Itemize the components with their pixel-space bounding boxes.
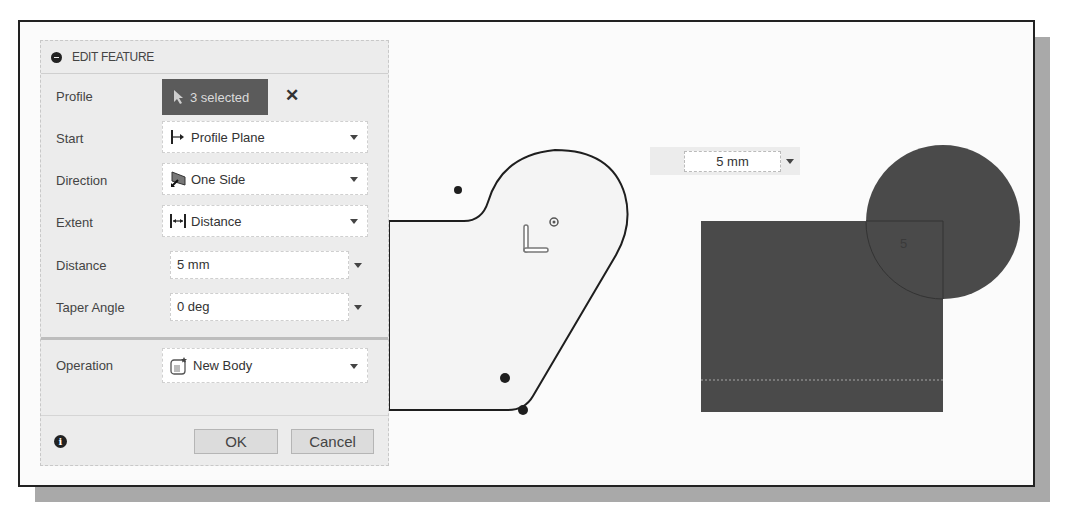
start-value: Profile Plane	[191, 130, 265, 145]
direction-dropdown[interactable]: One Side	[162, 163, 368, 195]
profile-selection-button[interactable]: 3 selected	[162, 79, 268, 115]
row-distance: Distance 5 mm	[41, 249, 388, 283]
operation-dropdown[interactable]: New Body	[162, 348, 368, 383]
one-side-icon	[169, 170, 187, 188]
cursor-arrow-icon	[172, 89, 186, 105]
row-extent: Extent Distance	[41, 205, 388, 239]
row-direction: Direction One Side	[41, 163, 388, 197]
row-operation: Operation New Body	[41, 348, 388, 382]
edit-feature-panel: EDIT FEATURE Profile 3 selected ✕ Start …	[40, 40, 389, 466]
distance-label: Distance	[56, 258, 107, 273]
clear-selection-icon[interactable]: ✕	[285, 85, 299, 106]
collapse-icon[interactable]	[51, 52, 62, 63]
direction-label: Direction	[56, 173, 107, 188]
taper-angle-dropdown-icon[interactable]	[354, 305, 362, 310]
distance-icon	[169, 212, 187, 230]
dimension-input[interactable]: 5 mm	[684, 151, 781, 172]
panel-title: EDIT FEATURE	[72, 50, 154, 64]
row-profile: Profile 3 selected ✕	[41, 79, 388, 113]
cancel-button[interactable]: Cancel	[291, 429, 374, 454]
row-start: Start Profile Plane	[41, 121, 388, 155]
new-body-icon	[169, 356, 189, 376]
extent-dropdown[interactable]: Distance	[162, 205, 368, 237]
distance-dropdown-icon[interactable]	[354, 263, 362, 268]
info-icon[interactable]: i	[54, 435, 67, 448]
chevron-down-icon	[350, 364, 358, 369]
section-divider	[41, 337, 388, 340]
chevron-down-icon	[350, 177, 358, 182]
dimension-label: 5	[900, 236, 907, 251]
dimension-dropdown-icon[interactable]	[786, 159, 794, 164]
distance-input[interactable]: 5 mm	[170, 251, 349, 279]
taper-angle-input[interactable]: 0 deg	[170, 293, 349, 321]
chevron-down-icon	[350, 219, 358, 224]
operation-label: Operation	[56, 358, 113, 373]
ok-button[interactable]: OK	[194, 429, 278, 454]
profile-selection-text: 3 selected	[190, 90, 249, 105]
panel-header: EDIT FEATURE	[41, 41, 388, 74]
taper-angle-label: Taper Angle	[56, 300, 125, 315]
profile-plane-icon	[169, 128, 187, 146]
direction-value: One Side	[191, 172, 245, 187]
start-label: Start	[56, 131, 83, 146]
row-taper-angle: Taper Angle 0 deg	[41, 291, 388, 325]
extent-label: Extent	[56, 215, 93, 230]
extent-value: Distance	[191, 214, 242, 229]
start-dropdown[interactable]: Profile Plane	[162, 121, 368, 153]
operation-value: New Body	[193, 358, 252, 373]
profile-label: Profile	[56, 89, 93, 104]
chevron-down-icon	[350, 135, 358, 140]
footer-divider	[41, 415, 388, 416]
